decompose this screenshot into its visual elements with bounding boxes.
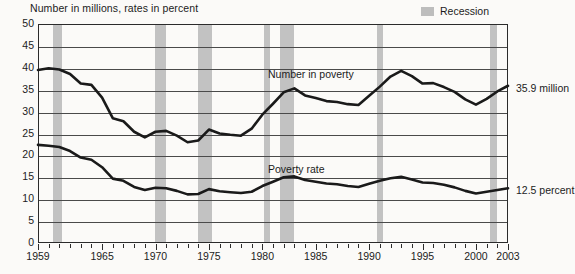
end-label-poverty-rate: 12.5 percent bbox=[516, 184, 574, 196]
x-axis-tick-label: 1965 bbox=[90, 250, 113, 262]
x-axis-tick-mark bbox=[284, 244, 285, 248]
x-axis-tick-mark bbox=[358, 244, 359, 248]
x-axis-tick-mark bbox=[433, 244, 434, 248]
x-axis-tick-mark bbox=[294, 244, 295, 248]
x-axis-tick-mark bbox=[177, 244, 178, 248]
x-axis-tick-mark bbox=[337, 244, 338, 248]
y-axis-tick-label: 45 bbox=[10, 39, 34, 51]
poverty-chart: Number in millions, rates in percent Rec… bbox=[0, 0, 575, 274]
x-axis-tick-mark bbox=[241, 244, 242, 248]
x-axis-tick-label: 1970 bbox=[144, 250, 167, 262]
x-axis-tick-label: 1980 bbox=[251, 250, 274, 262]
x-axis-tick-mark bbox=[198, 244, 199, 248]
x-axis-tick-mark bbox=[134, 244, 135, 248]
x-axis-tick-mark bbox=[487, 244, 488, 248]
x-axis-tick-mark bbox=[380, 244, 381, 248]
y-axis-tick-label: 30 bbox=[10, 105, 34, 117]
x-axis-tick-mark bbox=[401, 244, 402, 248]
series-label-poverty-rate: Poverty rate bbox=[268, 163, 325, 175]
legend-label-recession: Recession bbox=[440, 5, 489, 17]
series-lines bbox=[38, 24, 508, 243]
x-axis-tick-mark bbox=[455, 244, 456, 248]
x-axis-tick-mark bbox=[391, 244, 392, 248]
y-axis-tick-label: 25 bbox=[10, 127, 34, 139]
x-axis-tick-mark bbox=[91, 244, 92, 248]
y-axis-tick-label: 40 bbox=[10, 61, 34, 73]
y-axis-tick-label: 50 bbox=[10, 17, 34, 29]
x-axis-tick-mark bbox=[81, 244, 82, 248]
x-axis-tick-mark bbox=[49, 244, 50, 248]
x-axis-tick-mark bbox=[412, 244, 413, 248]
x-axis-tick-label: 2003 bbox=[496, 250, 519, 262]
x-axis-tick-mark bbox=[305, 244, 306, 248]
y-axis-tick-label: 10 bbox=[10, 192, 34, 204]
x-axis-tick-mark bbox=[273, 244, 274, 248]
x-axis-tick-mark bbox=[166, 244, 167, 248]
chart-legend: Recession bbox=[421, 5, 489, 17]
x-axis-tick-mark bbox=[465, 244, 466, 248]
x-axis-tick-mark bbox=[348, 244, 349, 248]
x-axis-tick-label: 1985 bbox=[304, 250, 327, 262]
y-axis-tick-label: 15 bbox=[10, 170, 34, 182]
x-axis-tick-label: 1995 bbox=[411, 250, 434, 262]
x-axis-tick-mark bbox=[70, 244, 71, 248]
x-axis-tick-mark bbox=[326, 244, 327, 248]
end-label-number-in-poverty: 35.9 million bbox=[516, 82, 569, 94]
x-axis-tick-mark bbox=[188, 244, 189, 248]
chart-axis-note: Number in millions, rates in percent bbox=[30, 2, 198, 14]
x-axis-tick-mark bbox=[220, 244, 221, 248]
x-axis-tick-label: 1975 bbox=[197, 250, 220, 262]
y-axis-tick-label: 35 bbox=[10, 83, 34, 95]
x-axis-tick-mark bbox=[230, 244, 231, 248]
y-axis-tick-label: 20 bbox=[10, 148, 34, 160]
x-axis-tick-label: 1990 bbox=[357, 250, 380, 262]
y-axis-tick-label: 0 bbox=[10, 236, 34, 248]
x-axis-tick-mark bbox=[59, 244, 60, 248]
y-axis-tick-label: 5 bbox=[10, 214, 34, 226]
x-axis-tick-mark bbox=[444, 244, 445, 248]
x-axis-tick-mark bbox=[252, 244, 253, 248]
x-axis-tick-mark bbox=[145, 244, 146, 248]
series-label-number-in-poverty: Number in poverty bbox=[268, 68, 354, 80]
x-axis-tick-label: 1959 bbox=[26, 250, 49, 262]
x-axis-tick-mark bbox=[123, 244, 124, 248]
x-axis-tick-mark bbox=[497, 244, 498, 248]
x-axis-tick-label: 2000 bbox=[464, 250, 487, 262]
x-axis-tick-mark bbox=[113, 244, 114, 248]
recession-swatch-icon bbox=[421, 7, 434, 16]
